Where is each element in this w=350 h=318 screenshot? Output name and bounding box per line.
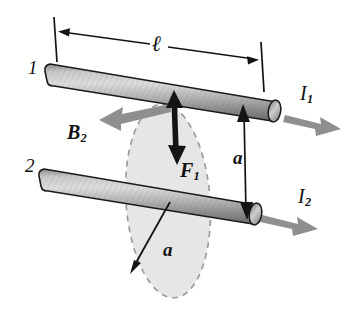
current-arrow-2-shape [260, 215, 318, 236]
magnetic-field-subscript: 2 [81, 131, 87, 145]
length-tick-right [261, 42, 264, 92]
magnetic-field-label: B2 [67, 122, 87, 142]
current-2-subscript: 2 [305, 195, 311, 209]
length-arrowhead-right [247, 56, 259, 64]
length-label: ℓ [152, 33, 161, 55]
physics-figure: 1 2 ℓ a a B2 F1 I1 I2 [0, 0, 350, 318]
force-label: F1 [180, 160, 200, 180]
figure-canvas [0, 0, 350, 318]
current-arrow-1-shape [283, 115, 341, 136]
current-arrow-rod1 [283, 115, 341, 136]
rod-2-label: 2 [25, 156, 35, 175]
force-symbol: F [180, 159, 193, 181]
separation-arrow-shaft [244, 112, 246, 212]
current-arrow-rod2 [260, 215, 318, 236]
force-subscript: 1 [194, 169, 200, 183]
rod-1-label: 1 [28, 58, 38, 77]
current-2-label: I2 [298, 186, 311, 206]
length-arrow-right [168, 47, 254, 59]
radius-label: a [163, 240, 173, 259]
current-1-label: I1 [300, 83, 313, 103]
separation-label: a [233, 148, 243, 167]
length-tick-left [54, 17, 57, 62]
length-arrowhead-left [58, 28, 70, 36]
current-1-symbol: I [300, 82, 307, 104]
current-2-symbol: I [298, 185, 305, 207]
current-1-subscript: 1 [307, 92, 313, 106]
length-arrow-left [62, 32, 150, 44]
magnetic-field-symbol: B [67, 121, 80, 143]
